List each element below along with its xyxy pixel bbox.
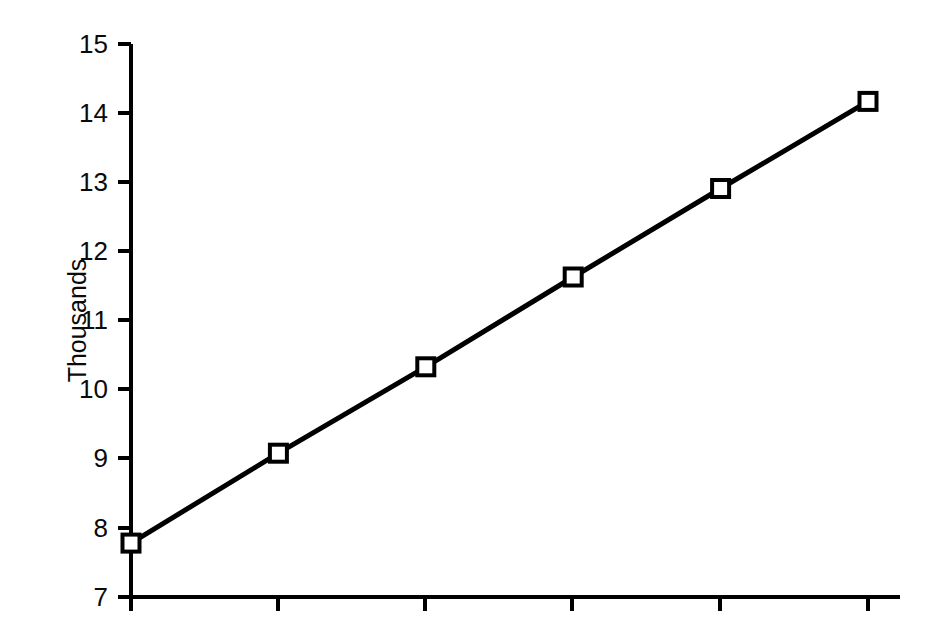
chart-plot-area [0,0,926,639]
line-chart-figure: 15 14 13 12 11 10 9 8 7 Thousands [0,0,926,639]
data-point-marker [860,93,877,110]
data-point-marker [270,445,287,462]
data-point-marker [417,358,434,375]
data-point-marker [712,180,729,197]
y-tick-label-14: 14 [78,100,108,126]
y-tick-label-8: 8 [78,515,108,541]
data-point-marker [565,269,582,286]
y-tick-label-7: 7 [78,584,108,610]
y-tick-label-15: 15 [78,31,108,57]
y-tick-label-9: 9 [78,445,108,471]
data-point-marker [123,535,140,552]
y-axis-title: Thousands [65,221,90,421]
y-tick-label-13: 13 [78,169,108,195]
